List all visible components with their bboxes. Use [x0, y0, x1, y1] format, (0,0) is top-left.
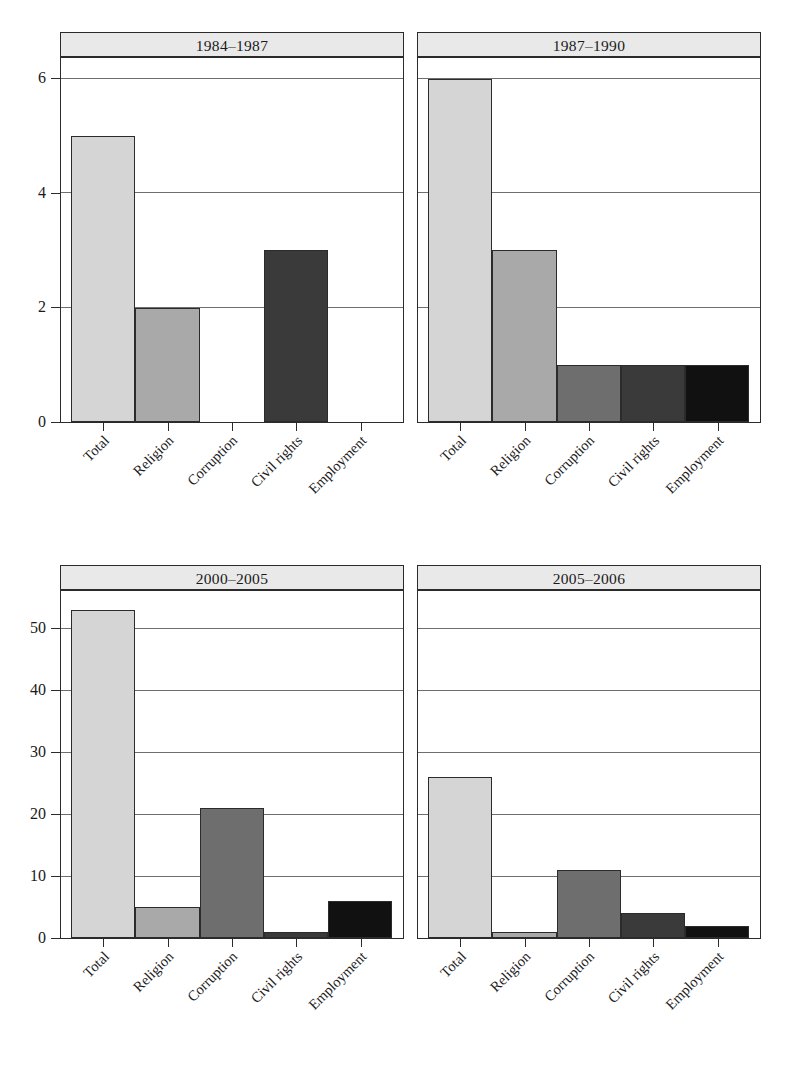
- ytick-mark-0-2: [51, 307, 60, 308]
- xtick-label-2-4: Employment: [306, 949, 369, 1012]
- xtick-label-3-3: Civil rights: [605, 949, 662, 1006]
- ytick-mark-2-40: [51, 690, 60, 691]
- xtick-mark-0-2: [232, 423, 233, 431]
- gridline-3-30: [418, 752, 760, 753]
- bar-1-2: [557, 365, 621, 422]
- xtick-label-0-2: Corruption: [185, 433, 240, 488]
- ytick-label-2-50: 50: [16, 620, 46, 636]
- ytick-label-0-4: 4: [16, 185, 46, 201]
- bar-3-1: [492, 932, 556, 938]
- bar-1-0: [428, 79, 492, 422]
- plot-area-0: [60, 57, 404, 423]
- bar-2-2: [200, 808, 264, 938]
- xtick-mark-3-0: [460, 939, 461, 947]
- ytick-mark-2-0: [51, 938, 60, 939]
- bar-2-4: [328, 901, 392, 938]
- xtick-mark-1-3: [653, 423, 654, 431]
- ytick-label-2-40: 40: [16, 682, 46, 698]
- xtick-mark-1-2: [589, 423, 590, 431]
- bar-3-4: [685, 926, 749, 938]
- xtick-label-0-3: Civil rights: [248, 433, 305, 490]
- xtick-mark-0-4: [361, 423, 362, 431]
- xtick-label-3-0: Total: [438, 949, 469, 980]
- ytick-label-2-0: 0: [16, 930, 46, 946]
- bar-2-3: [264, 932, 328, 938]
- xtick-label-3-1: Religion: [487, 949, 533, 995]
- bar-3-0: [428, 777, 492, 938]
- bar-1-3: [621, 365, 685, 422]
- plot-area-1: [417, 57, 761, 423]
- xtick-mark-0-3: [296, 423, 297, 431]
- gridline-0-6: [61, 78, 403, 79]
- ytick-label-2-10: 10: [16, 868, 46, 884]
- bar-2-0: [71, 610, 135, 938]
- xtick-mark-2-3: [296, 939, 297, 947]
- xtick-label-1-3: Civil rights: [605, 433, 662, 490]
- xtick-label-1-4: Employment: [663, 433, 726, 496]
- panel-title-3: 2005–2006: [417, 565, 761, 589]
- gridline-3-50: [418, 628, 760, 629]
- bar-0-0: [71, 136, 135, 422]
- xtick-mark-3-4: [718, 939, 719, 947]
- bar-2-1: [135, 907, 199, 938]
- xtick-mark-1-0: [460, 423, 461, 431]
- ytick-label-0-0: 0: [16, 414, 46, 430]
- xtick-label-3-4: Employment: [663, 949, 726, 1012]
- chart-figure: 1984–19870246TotalReligionCorruptionCivi…: [0, 0, 787, 1077]
- bar-3-3: [621, 913, 685, 938]
- bar-1-4: [685, 365, 749, 422]
- bar-0-3: [264, 250, 328, 422]
- xtick-label-1-0: Total: [438, 433, 469, 464]
- gridline-3-40: [418, 690, 760, 691]
- xtick-label-2-3: Civil rights: [248, 949, 305, 1006]
- xtick-label-0-1: Religion: [130, 433, 176, 479]
- ytick-label-0-6: 6: [16, 70, 46, 86]
- ytick-mark-2-30: [51, 752, 60, 753]
- xtick-label-2-0: Total: [81, 949, 112, 980]
- ytick-label-0-2: 2: [16, 299, 46, 315]
- xtick-label-3-2: Corruption: [542, 949, 597, 1004]
- xtick-label-2-1: Religion: [130, 949, 176, 995]
- ytick-mark-0-0: [51, 422, 60, 423]
- xtick-mark-3-1: [525, 939, 526, 947]
- xtick-label-0-4: Employment: [306, 433, 369, 496]
- plot-area-3: [417, 590, 761, 939]
- xtick-mark-1-4: [718, 423, 719, 431]
- plot-area-2: [60, 590, 404, 939]
- xtick-mark-3-2: [589, 939, 590, 947]
- xtick-mark-2-1: [168, 939, 169, 947]
- xtick-mark-2-4: [361, 939, 362, 947]
- bar-0-1: [135, 308, 199, 422]
- xtick-mark-2-2: [232, 939, 233, 947]
- xtick-mark-0-1: [168, 423, 169, 431]
- xtick-label-2-2: Corruption: [185, 949, 240, 1004]
- ytick-label-2-20: 20: [16, 806, 46, 822]
- ytick-mark-2-50: [51, 628, 60, 629]
- xtick-mark-2-0: [103, 939, 104, 947]
- xtick-mark-0-0: [103, 423, 104, 431]
- xtick-mark-3-3: [653, 939, 654, 947]
- xtick-label-1-1: Religion: [487, 433, 533, 479]
- ytick-mark-0-6: [51, 78, 60, 79]
- ytick-mark-2-10: [51, 876, 60, 877]
- ytick-mark-2-20: [51, 814, 60, 815]
- panel-title-1: 1987–1990: [417, 32, 761, 56]
- bar-1-1: [492, 250, 556, 422]
- panel-title-0: 1984–1987: [60, 32, 404, 56]
- panel-title-2: 2000–2005: [60, 565, 404, 589]
- ytick-mark-0-4: [51, 193, 60, 194]
- xtick-label-1-2: Corruption: [542, 433, 597, 488]
- xtick-label-0-0: Total: [81, 433, 112, 464]
- xtick-mark-1-1: [525, 423, 526, 431]
- ytick-label-2-30: 30: [16, 744, 46, 760]
- bar-3-2: [557, 870, 621, 938]
